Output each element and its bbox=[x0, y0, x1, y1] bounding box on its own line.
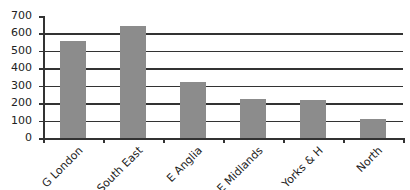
bar-e-anglia bbox=[180, 82, 206, 138]
gridline bbox=[43, 121, 403, 123]
x-tick-label: E Anglia bbox=[164, 144, 205, 185]
x-tick-label: North bbox=[354, 144, 385, 175]
bar-north bbox=[360, 119, 386, 138]
y-tick-label: 700 bbox=[2, 10, 32, 22]
y-tick-label: 100 bbox=[2, 115, 32, 127]
y-tick-label: 400 bbox=[2, 62, 32, 74]
bar-chart: 0100200300400500600700G LondonSouth East… bbox=[0, 0, 410, 190]
gridline bbox=[43, 86, 403, 88]
x-tick-label: E Midlands bbox=[214, 144, 265, 190]
bar-south-east bbox=[120, 26, 146, 138]
bar-g-london bbox=[60, 41, 86, 138]
y-tick-label: 600 bbox=[2, 27, 32, 39]
x-tick-mark bbox=[163, 138, 165, 143]
x-tick-mark bbox=[283, 138, 285, 143]
x-tick-mark bbox=[223, 138, 225, 143]
x-tick-mark bbox=[403, 138, 405, 143]
x-tick-label: Yorks & H bbox=[279, 144, 325, 190]
x-tick-label: G London bbox=[39, 144, 85, 190]
gridline bbox=[43, 68, 403, 70]
x-tick-mark bbox=[103, 138, 105, 143]
gridline bbox=[43, 51, 403, 53]
y-axis bbox=[43, 16, 45, 138]
gridline bbox=[43, 33, 403, 35]
x-tick-mark bbox=[343, 138, 345, 143]
bar-e-midlands bbox=[240, 99, 266, 138]
gridline bbox=[43, 103, 403, 105]
x-tick-mark bbox=[43, 138, 45, 143]
y-tick-label: 500 bbox=[2, 45, 32, 57]
y-tick-label: 0 bbox=[2, 132, 32, 144]
y-tick-label: 300 bbox=[2, 80, 32, 92]
bar-yorks-h bbox=[300, 100, 326, 138]
y-tick-label: 200 bbox=[2, 97, 32, 109]
x-tick-label: South East bbox=[94, 144, 145, 190]
